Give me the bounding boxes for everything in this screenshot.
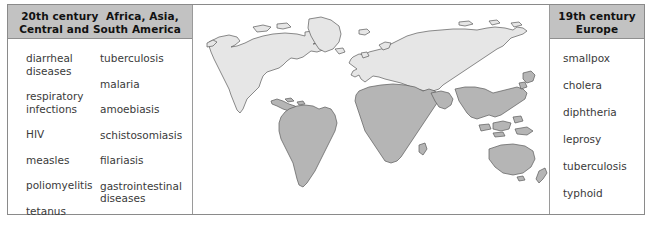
list-item: schistosomiasis [100,129,192,142]
list-item: measles [26,154,94,167]
figure-container: 20th century Africa, Asia, Central and S… [7,4,645,215]
list-item: respiratory infections [26,90,94,115]
list-item: tuberculosis [563,160,644,173]
japan [523,71,535,83]
panel-20th-century-header: 20th century Africa, Asia, Central and S… [8,5,192,39]
world-map-svg [193,5,549,214]
disease-list-20th-century: diarrheal diseases respiratory infection… [8,39,192,214]
panel-20th-century: 20th century Africa, Asia, Central and S… [8,5,192,214]
world-map-panel [192,5,550,214]
list-item: typhoid [563,187,644,200]
list-item: cholera [563,79,644,92]
panel-20th-century-header-line-2: Central and South America [12,23,188,36]
panel-19th-century-header-line-1: 19th century [554,10,640,23]
list-item: leprosy [563,133,644,146]
disease-column-two: tuberculosis malaria amoebiasis schistos… [94,39,192,214]
disease-column-one: diarrheal diseases respiratory infection… [8,39,94,214]
list-item: diarrheal diseases [26,52,94,77]
list-item: filariasis [100,154,192,167]
java [493,132,505,137]
list-item: HIV [26,128,94,141]
list-item: amoebiasis [100,103,192,116]
list-item: malaria [100,78,192,91]
disease-column-europe: smallpox cholera diphtheria leprosy tube… [550,39,644,200]
disease-list-19th-century: smallpox cholera diphtheria leprosy tube… [550,39,644,214]
list-item: gastrointestinal diseases [100,180,192,205]
borneo [493,121,511,131]
hispaniola [297,101,305,105]
list-item: tetanus [26,205,94,218]
list-item: poliomyelitis [26,179,94,192]
list-item: tuberculosis [100,52,192,65]
panel-19th-century-header-line-2: Europe [554,23,640,36]
list-item: smallpox [563,52,644,65]
panel-19th-century-header: 19th century Europe [550,5,644,39]
panel-19th-century: 19th century Europe smallpox cholera dip… [550,5,644,214]
list-item: diphtheria [563,106,644,119]
world-map [193,5,549,214]
panel-20th-century-header-line-1: 20th century Africa, Asia, [12,10,188,23]
